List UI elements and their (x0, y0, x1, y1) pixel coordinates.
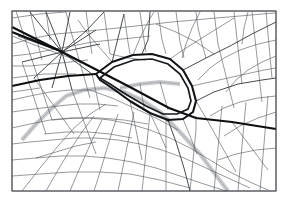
secondary-junction-dot (167, 119, 170, 122)
star-junction-dot (60, 50, 63, 53)
map-container (0, 0, 288, 204)
street-map-canvas (0, 0, 288, 204)
